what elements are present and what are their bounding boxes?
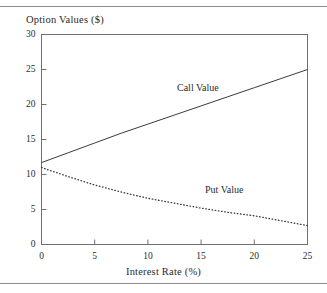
- y-tick-label: 10: [10, 169, 36, 179]
- y-tick-label: 25: [10, 64, 36, 74]
- x-tick-label: 10: [135, 251, 161, 261]
- y-tick-label: 30: [10, 29, 36, 39]
- x-tick-label: 5: [82, 251, 108, 261]
- axes-frame: [42, 35, 308, 245]
- x-tick-label: 0: [29, 251, 55, 261]
- x-tick-label: 25: [295, 251, 321, 261]
- series-label-put-value: Put Value: [205, 184, 243, 195]
- y-tick-label: 5: [10, 204, 36, 214]
- x-tick-label: 20: [241, 251, 267, 261]
- chart-figure: Option Values ($) Interest Rate (%) 0510…: [0, 0, 327, 293]
- y-tick-label: 15: [10, 134, 36, 144]
- series-line-put-value: [42, 168, 308, 226]
- data-series-lines: [42, 70, 308, 226]
- x-tick-label: 15: [188, 251, 214, 261]
- series-line-call-value: [42, 70, 308, 163]
- axis-ticks: [42, 35, 308, 245]
- plot-canvas: [0, 0, 327, 293]
- y-tick-label: 0: [10, 239, 36, 249]
- series-label-call-value: Call Value: [177, 82, 219, 93]
- y-tick-label: 20: [10, 99, 36, 109]
